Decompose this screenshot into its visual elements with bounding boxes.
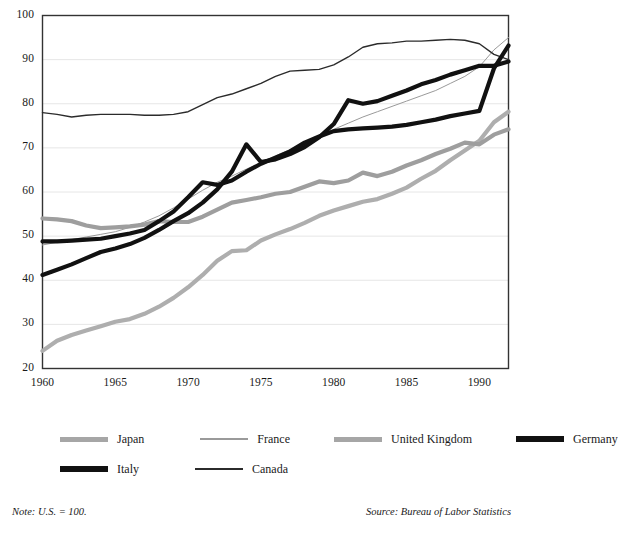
legend-label: France — [257, 432, 290, 447]
legend-swatch-icon — [200, 438, 248, 439]
y-axis-tick-label: 40 — [4, 272, 34, 284]
y-axis-tick-label: 60 — [4, 184, 34, 196]
plot-area: 1009080706050403020196019651970197519801… — [0, 0, 523, 400]
x-axis-tick-label: 1980 — [312, 376, 356, 388]
x-axis-tick-label: 1985 — [385, 376, 429, 388]
legend-item-germany[interactable]: Germany — [516, 432, 618, 447]
note-text: Note: U.S. = 100. — [12, 506, 87, 517]
y-axis-tick-label: 80 — [4, 96, 34, 108]
chart-footnotes: Note: U.S. = 100. Source: Bureau of Labo… — [0, 506, 523, 517]
legend-swatch-icon — [60, 437, 108, 442]
legend-label: United Kingdom — [391, 432, 472, 447]
y-axis-tick-label: 20 — [4, 361, 34, 373]
y-axis-tick-label: 100 — [4, 8, 34, 20]
series-line-germany — [43, 46, 509, 242]
legend-swatch-icon — [334, 437, 382, 442]
y-axis-tick-label: 50 — [4, 228, 34, 240]
chart-canvas — [0, 0, 523, 400]
legend-item-japan[interactable]: Japan — [60, 432, 144, 447]
chart-legend: JapanFranceUnited KingdomGermanyItalyCan… — [0, 424, 523, 484]
x-axis-tick-label: 1965 — [93, 376, 137, 388]
series-line-france — [43, 38, 509, 245]
legend-row: JapanFranceUnited KingdomGermany — [0, 424, 523, 454]
x-axis-tick-label: 1970 — [166, 376, 210, 388]
legend-item-canada[interactable]: Canada — [195, 462, 288, 477]
series-line-united-kingdom — [43, 129, 509, 228]
x-axis-tick-label: 1975 — [239, 376, 283, 388]
legend-label: Italy — [117, 462, 139, 477]
y-axis-tick-label: 70 — [4, 140, 34, 152]
legend-label: Germany — [573, 432, 618, 447]
legend-label: Canada — [252, 462, 288, 477]
source-text: Source: Bureau of Labor Statistics — [366, 506, 511, 517]
legend-item-france[interactable]: France — [200, 432, 290, 447]
y-axis-tick-label: 90 — [4, 52, 34, 64]
legend-swatch-icon — [516, 436, 564, 442]
legend-row: ItalyCanada — [0, 454, 523, 484]
legend-item-italy[interactable]: Italy — [60, 462, 139, 477]
legend-swatch-icon — [60, 466, 108, 472]
legend-item-united-kingdom[interactable]: United Kingdom — [334, 432, 472, 447]
x-axis-tick-label: 1960 — [21, 376, 65, 388]
x-axis-tick-label: 1990 — [457, 376, 501, 388]
y-axis-tick-label: 30 — [4, 316, 34, 328]
legend-swatch-icon — [195, 468, 243, 470]
legend-label: Japan — [117, 432, 144, 447]
